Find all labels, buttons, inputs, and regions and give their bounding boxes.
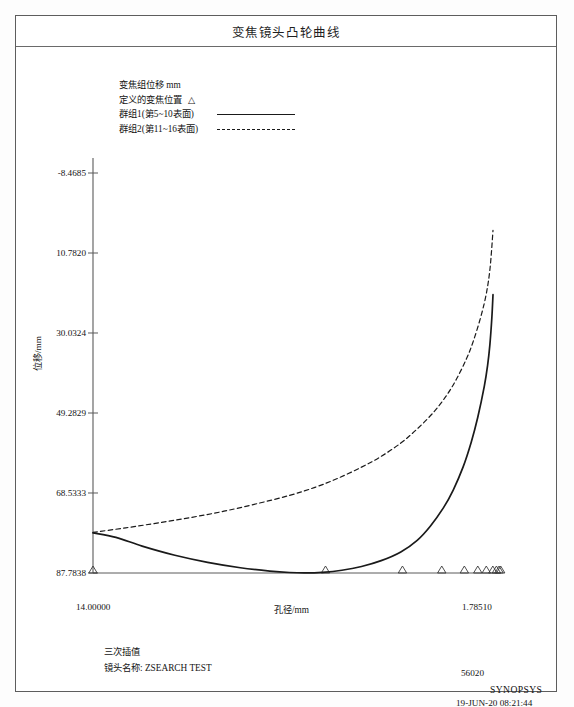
legend-series2-label: 群组2(第11~16表面) (119, 122, 211, 137)
chart-page: 变焦镜头凸轮曲线 变焦组位移 mm 定义的变焦位置 △ 群组1(第5~10表面)… (0, 0, 574, 707)
series-curve-2 (93, 230, 493, 532)
interpolation-label: 三次插值 (104, 644, 212, 660)
legend-units-label: 变焦组位移 mm (119, 78, 181, 93)
series-curve-1 (93, 295, 493, 573)
y-tick-label: 87.7838 (26, 568, 86, 578)
legend-defined-position-row: 定义的变焦位置 △ (119, 93, 295, 108)
title-bar: 变焦镜头凸轮曲线 (16, 16, 556, 47)
y-tick-label: -8.4685 (26, 168, 86, 178)
y-tick-label: 49.2829 (26, 408, 86, 418)
x-axis-min-label: 14.00000 (76, 602, 110, 612)
footer-left: 三次插值 镜头名称: ZSEARCH TEST (104, 644, 212, 676)
lens-name-label: 镜头名称: ZSEARCH TEST (104, 660, 212, 676)
footer-code: 56020 (461, 668, 484, 678)
y-tick-label: 10.7820 (26, 248, 86, 258)
legend-series2-line-sample (217, 129, 295, 130)
legend-units-row: 变焦组位移 mm (119, 78, 295, 93)
y-tick-label: 68.5333 (26, 488, 86, 498)
legend-series1-label: 群组1(第5~10表面) (119, 107, 211, 122)
page-title: 变焦镜头凸轮曲线 (232, 22, 341, 41)
zoom-position-markers (89, 566, 505, 573)
y-axis-label: 位移/mm (30, 336, 44, 371)
legend: 变焦组位移 mm 定义的变焦位置 △ 群组1(第5~10表面) 群组2(第11~… (119, 78, 295, 136)
chart-frame: 变焦镜头凸轮曲线 变焦组位移 mm 定义的变焦位置 △ 群组1(第5~10表面)… (15, 15, 557, 692)
triangle-icon: △ (188, 93, 195, 108)
legend-series1-row: 群组1(第5~10表面) (119, 107, 295, 122)
footer-brand: SYNOPSYS (490, 684, 542, 695)
x-axis-label: 孔径/mm (274, 602, 309, 616)
x-axis-max-label: 1.78510 (462, 602, 492, 612)
legend-series1-line-sample (217, 114, 295, 115)
curve-group (93, 230, 493, 573)
legend-defined-position-label: 定义的变焦位置 (119, 93, 182, 108)
axis-group (88, 158, 501, 573)
footer-datetime: 19-JUN-20 08:21:44 (456, 698, 532, 707)
legend-series2-row: 群组2(第11~16表面) (119, 122, 295, 137)
